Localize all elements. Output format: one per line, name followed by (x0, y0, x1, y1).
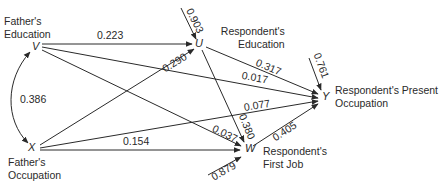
node-y: Y (322, 90, 329, 102)
coef-v-x-correlation: 0.386 (20, 93, 46, 105)
node-u: U (195, 37, 203, 49)
coef-x-w: 0.154 (123, 135, 149, 147)
node-label-v-line2: Education (4, 28, 51, 41)
node-label-u-line2: Education (216, 38, 285, 51)
node-label-y: Respondent's Present Occupation (335, 84, 438, 110)
node-label-y-line1: Respondent's Present (335, 84, 438, 97)
node-label-x: Father's Occupation (8, 156, 61, 182)
node-label-y-line2: Occupation (335, 97, 438, 110)
node-label-w-line1: Respondent's (263, 145, 327, 158)
node-v: V (32, 40, 39, 52)
node-label-w: Respondent's First Job (263, 145, 327, 171)
node-label-x-line2: Occupation (8, 169, 61, 182)
node-w: W (245, 142, 255, 154)
node-x: X (28, 141, 35, 153)
node-label-v-line1: Father's (4, 15, 51, 28)
node-label-v: Father's Education (4, 15, 51, 41)
node-label-x-line1: Father's (8, 156, 61, 169)
node-label-w-line2: First Job (263, 158, 327, 171)
node-label-u: Respondent's Education (216, 25, 285, 51)
node-label-u-line1: Respondent's (216, 25, 285, 38)
coef-v-u: 0.223 (97, 29, 123, 41)
